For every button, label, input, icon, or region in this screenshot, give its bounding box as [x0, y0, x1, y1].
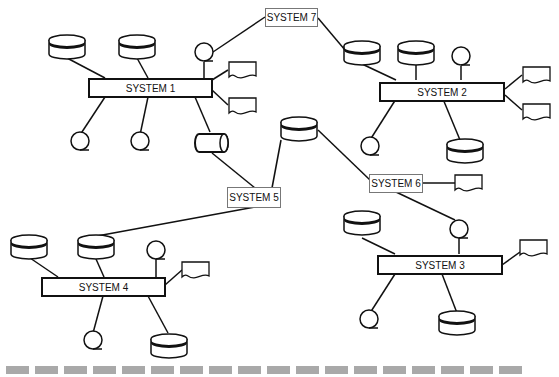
disk-storage-icon	[447, 139, 483, 163]
disk-storage-icon	[11, 235, 47, 259]
magnetic-tape-icon	[71, 132, 89, 150]
disk-storage-icon	[439, 311, 475, 335]
magnetic-tape-icon	[360, 310, 378, 328]
document-icon	[523, 104, 550, 120]
dash-segment	[35, 366, 58, 374]
footer-dashed-divider	[6, 366, 556, 374]
dash-segment	[441, 366, 464, 374]
dash-segment	[325, 366, 348, 374]
document-icon	[455, 175, 482, 191]
system-1-box[interactable]: SYSTEM 1	[88, 78, 213, 98]
dash-segment	[267, 366, 290, 374]
disk-storage-icon	[398, 41, 434, 65]
drum-storage-icon	[195, 134, 228, 152]
magnetic-tape-icon	[361, 137, 379, 155]
document-icon	[182, 262, 209, 278]
dash-segment	[64, 366, 87, 374]
dash-segment	[238, 366, 261, 374]
dash-segment	[122, 366, 145, 374]
system-4-box[interactable]: SYSTEM 4	[41, 277, 166, 297]
disk-storage-icon	[344, 41, 380, 65]
magnetic-tape-icon	[195, 43, 213, 61]
disk-storage-icon	[344, 211, 380, 235]
dash-segment	[6, 366, 29, 374]
document-icon	[229, 62, 256, 78]
disk-storage-icon	[281, 117, 317, 141]
dash-segment	[180, 366, 203, 374]
disk-storage-icon	[78, 235, 114, 259]
disk-storage-icon	[151, 334, 187, 358]
magnetic-tape-icon	[131, 132, 149, 150]
document-icon	[520, 240, 547, 256]
document-icon	[523, 67, 550, 83]
magnetic-tape-icon	[452, 47, 470, 65]
disk-storage-icon	[119, 35, 155, 59]
dash-segment	[209, 366, 232, 374]
dash-segment	[296, 366, 319, 374]
dash-segment	[93, 366, 116, 374]
system-5-label[interactable]: SYSTEM 5	[227, 187, 281, 208]
dash-segment	[470, 366, 493, 374]
system-2-box[interactable]: SYSTEM 2	[379, 82, 505, 102]
magnetic-tape-icon	[84, 331, 102, 349]
disk-storage-icon	[49, 35, 85, 59]
magnetic-tape-icon	[450, 220, 468, 238]
magnetic-tape-icon	[147, 241, 165, 259]
document-icon	[229, 98, 256, 114]
system-3-box[interactable]: SYSTEM 3	[377, 255, 503, 275]
dash-segment	[499, 366, 522, 374]
system-7-label[interactable]: SYSTEM 7	[265, 8, 318, 27]
dash-segment	[383, 366, 406, 374]
dash-segment	[151, 366, 174, 374]
dash-segment	[412, 366, 435, 374]
dash-segment	[354, 366, 377, 374]
system-6-label[interactable]: SYSTEM 6	[369, 174, 423, 193]
